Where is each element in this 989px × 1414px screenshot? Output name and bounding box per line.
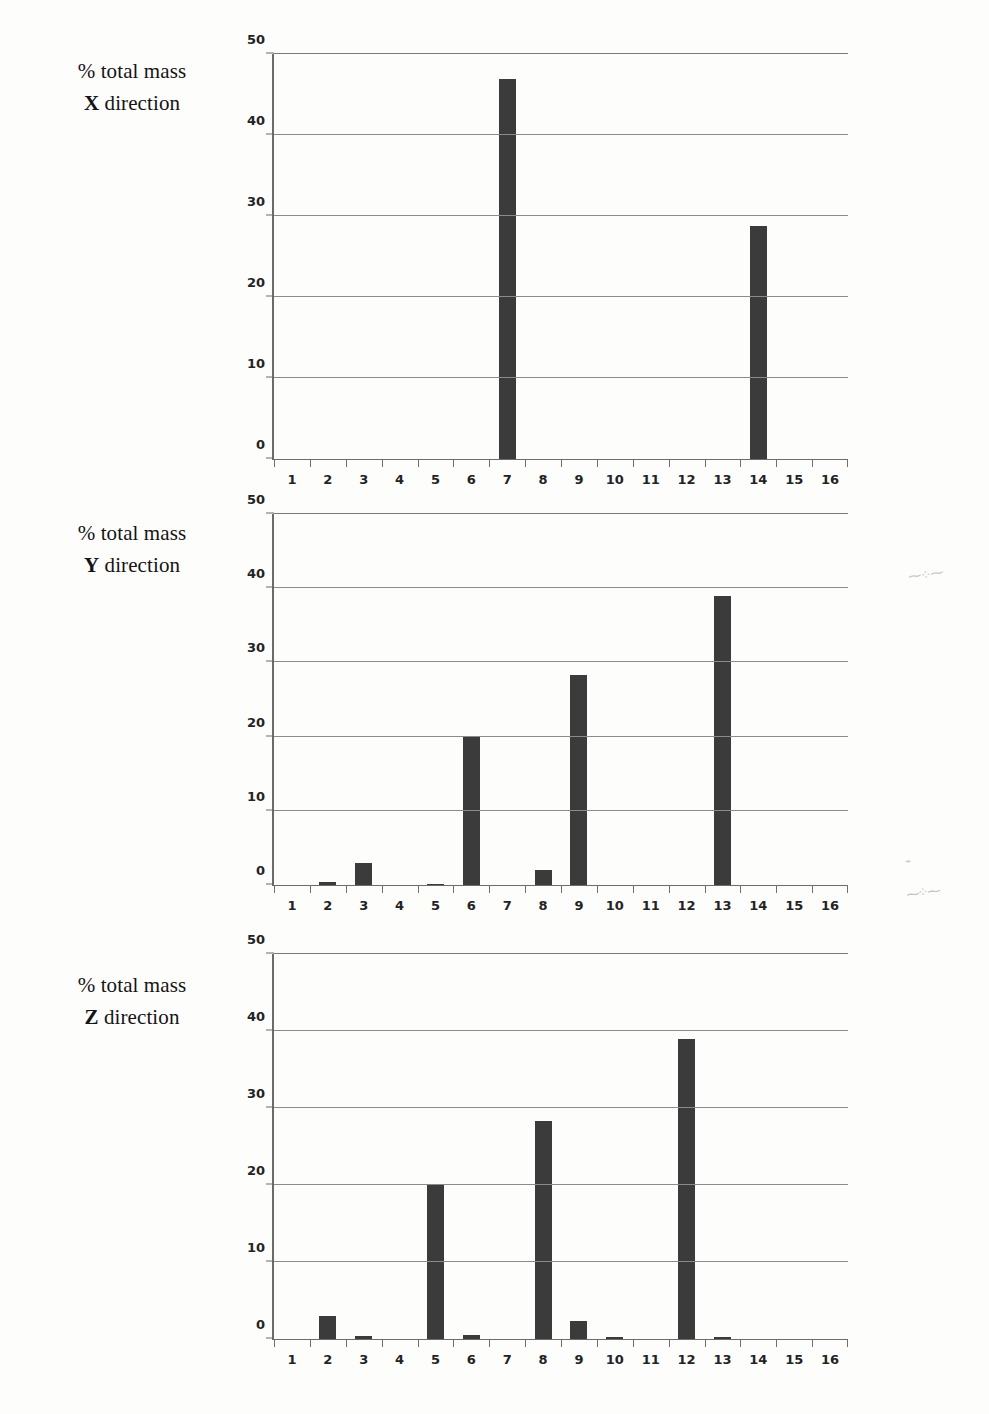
x-axis-tick-mark: [597, 459, 633, 468]
x-axis-tick-mark: [633, 885, 669, 894]
bar-cell: [346, 954, 382, 1339]
x-axis-tick-mark: [274, 459, 310, 468]
bar-cell: [633, 514, 669, 885]
x-axis-tick-mark: [525, 1339, 561, 1348]
bar-cell: [310, 954, 346, 1339]
gridline: [274, 587, 848, 588]
bar-cell: [525, 954, 561, 1339]
bar-cell: [633, 954, 669, 1339]
y-axis-tick-label: 40: [247, 1009, 265, 1024]
x-axis-tick-label: 16: [812, 1352, 848, 1367]
bar-cell: [812, 954, 848, 1339]
bar-cell: [597, 954, 633, 1339]
bar-cell: [740, 54, 776, 459]
x-axis-tick-mark: [382, 885, 418, 894]
caption-line-percent-total-mass: % total mass: [36, 518, 228, 550]
x-axis-tick-mark: [382, 1339, 418, 1348]
x-axis-tick-mark: [489, 885, 525, 894]
bar-cell: [274, 514, 310, 885]
y-axis-tick-label: 50: [247, 32, 265, 47]
y-axis-tick-label: 20: [247, 275, 265, 290]
y-axis-tick-label: 10: [247, 1240, 265, 1255]
bar-series-z: [274, 954, 848, 1339]
bar-cell: [740, 954, 776, 1339]
bar-cell: [382, 954, 418, 1339]
x-axis-tick-label: 14: [740, 1352, 776, 1367]
y-axis-tick-mark: [266, 513, 274, 514]
chart-caption-y: % total mass Y direction: [36, 518, 228, 582]
plot-area-y: 12345678910111213141516 01020304050: [272, 514, 848, 886]
x-axis-tick-label: 6: [453, 1352, 489, 1367]
x-axis-labels-x: 12345678910111213141516: [274, 472, 848, 487]
caption-line-direction: Y direction: [36, 550, 228, 582]
bar-cell: [561, 54, 597, 459]
x-axis-tick-label: 11: [633, 472, 669, 487]
x-axis-tick-label: 5: [418, 898, 454, 913]
y-axis-tick-mark: [266, 1338, 274, 1339]
bar-series-x: [274, 54, 848, 459]
y-axis-tick-label: 20: [247, 1163, 265, 1178]
bar-cell: [776, 54, 812, 459]
x-axis-tick-mark: [812, 459, 848, 468]
y-axis-tick-label: 40: [247, 113, 265, 128]
gridline: [274, 1184, 848, 1185]
bar: [570, 1321, 587, 1339]
x-axis-tick-label: 12: [669, 898, 705, 913]
x-axis-tick-label: 6: [453, 472, 489, 487]
x-axis-tick-mark: [274, 1339, 310, 1348]
bar-cell: [669, 954, 705, 1339]
x-axis-tick-label: 5: [418, 472, 454, 487]
bar-cell: [382, 514, 418, 885]
x-axis-tick-label: 2: [310, 898, 346, 913]
x-axis-tick-mark: [453, 459, 489, 468]
x-axis-tick-mark: [705, 459, 741, 468]
x-axis-tick-label: 3: [346, 472, 382, 487]
x-axis-tick-mark: [705, 885, 741, 894]
y-axis-tick-label: 40: [247, 566, 265, 581]
caption-line-direction: Z direction: [36, 1002, 228, 1034]
direction-word: direction: [99, 91, 180, 115]
x-axis-tick-mark: [597, 1339, 633, 1348]
bar-cell: [310, 514, 346, 885]
gridline: [274, 215, 848, 216]
x-axis-tick-label: 16: [812, 898, 848, 913]
x-axis-tick-label: 9: [561, 1352, 597, 1367]
x-axis-tick-label: 15: [776, 898, 812, 913]
x-axis-tick-mark: [740, 1339, 776, 1348]
y-axis-tick-mark: [266, 735, 274, 736]
x-axis-tick-mark: [812, 1339, 848, 1348]
x-axis-tick-mark: [453, 885, 489, 894]
bar: [499, 79, 516, 459]
bar-cell: [453, 514, 489, 885]
y-axis-tick-mark: [266, 1261, 274, 1262]
x-axis-tick-mark: [418, 885, 454, 894]
x-axis-tick-label: 11: [633, 898, 669, 913]
bar-cell: [705, 954, 741, 1339]
bar-cell: [489, 54, 525, 459]
gridline: [274, 953, 848, 954]
y-axis-tick-mark: [266, 1184, 274, 1185]
bar-cell: [418, 54, 454, 459]
x-axis-tick-mark: [453, 1339, 489, 1348]
y-axis-tick-label: 0: [256, 1317, 265, 1332]
bar-cell: [776, 514, 812, 885]
gridline: [274, 661, 848, 662]
gridline: [274, 53, 848, 54]
x-tick-marks-x: [274, 459, 848, 468]
y-axis-tick-label: 30: [247, 640, 265, 655]
x-axis-tick-mark: [633, 1339, 669, 1348]
x-axis-tick-mark: [561, 885, 597, 894]
bar: [427, 1185, 444, 1339]
x-axis-tick-mark: [740, 459, 776, 468]
gridline: [274, 810, 848, 811]
chart-caption-x: % total mass X direction: [36, 56, 228, 120]
bar: [750, 226, 767, 459]
y-axis-tick-mark: [266, 296, 274, 297]
y-axis-tick-label: 50: [247, 492, 265, 507]
x-axis-tick-mark: [382, 459, 418, 468]
x-axis-tick-label: 14: [740, 472, 776, 487]
bar-cell: [597, 54, 633, 459]
y-axis-tick-mark: [266, 884, 274, 885]
x-axis-tick-mark: [669, 459, 705, 468]
chart-caption-z: % total mass Z direction: [36, 970, 228, 1034]
